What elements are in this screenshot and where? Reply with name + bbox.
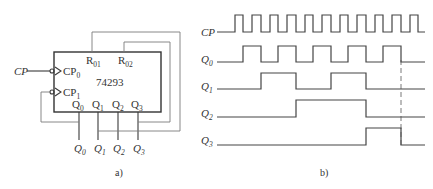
chip-part-number: 74293 — [96, 76, 124, 88]
cp0-clock-triangle-icon — [55, 67, 61, 75]
output-q3-label: Q3 — [133, 142, 145, 157]
output-q1-label: Q1 — [94, 142, 106, 157]
waveform-q2 — [217, 100, 425, 117]
cp1-clock-triangle-icon — [55, 88, 61, 96]
pin-q2-label: Q2 — [112, 98, 124, 113]
signal-label-q2: Q2 — [201, 107, 213, 122]
pin-cp0-label: CP0 — [63, 65, 80, 80]
figure-b-caption: b) — [320, 167, 328, 179]
output-q0-label: Q0 — [74, 142, 86, 157]
timing-diagram: CP Q0 Q1 Q2 Q3 b) — [201, 15, 425, 179]
circuit-diagram: 74293 R01 R02 CP0 CP1 Q0 Q1 Q2 Q3 CP — [14, 32, 180, 179]
figure-canvas: 74293 R01 R02 CP0 CP1 Q0 Q1 Q2 Q3 CP — [0, 0, 433, 189]
signal-label-cp: CP — [201, 26, 215, 38]
signal-label-q1: Q1 — [201, 80, 213, 95]
pin-r01-label: R01 — [86, 54, 101, 69]
figure-a-caption: a) — [115, 167, 123, 179]
output-q2-label: Q2 — [113, 142, 125, 157]
pin-r02-label: R02 — [118, 54, 133, 69]
pin-q1-label: Q1 — [92, 98, 104, 113]
waveform-q1 — [217, 73, 425, 89]
pin-q0-label: Q0 — [72, 98, 84, 113]
q3-to-r02-reset-wire — [124, 42, 170, 122]
signal-label-q0: Q0 — [201, 53, 213, 68]
signal-label-q3: Q3 — [201, 134, 213, 149]
waveform-q3 — [217, 128, 425, 145]
waveform-q0 — [217, 46, 425, 62]
cp-input-label: CP — [14, 65, 28, 77]
waveform-cp — [217, 15, 425, 32]
pin-q3-label: Q3 — [131, 98, 143, 113]
